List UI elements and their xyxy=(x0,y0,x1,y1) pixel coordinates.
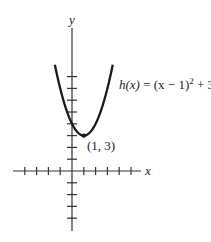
function-tail: + 3 xyxy=(194,77,211,92)
parabola-curve xyxy=(55,65,113,136)
graph: x y (1, 3) h(x) = (x − 1)2 + 3 xyxy=(0,0,211,242)
function-label: h(x) = (x − 1)2 + 3 xyxy=(119,76,211,92)
function-eq: = (x − 1) xyxy=(140,77,189,92)
vertex-label: (1, 3) xyxy=(87,138,115,153)
y-axis-label: y xyxy=(67,12,75,27)
x-axis-label: x xyxy=(144,163,151,178)
function-lhs: h(x) xyxy=(119,77,140,92)
vertex-point xyxy=(82,133,86,137)
axes xyxy=(13,28,141,231)
